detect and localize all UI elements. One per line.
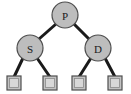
node-label-root: P <box>62 10 68 22</box>
binary-tree-diagram: P S D <box>0 0 131 94</box>
tree-node-left: S <box>17 35 43 61</box>
node-label-right: D <box>94 43 102 55</box>
tree-node-right: D <box>85 35 111 61</box>
leaf-node-4 <box>108 76 122 90</box>
leaf-node-1 <box>7 76 21 90</box>
leaf-node-2 <box>43 76 57 90</box>
node-label-left: S <box>27 43 33 55</box>
tree-node-root: P <box>52 2 78 28</box>
leaf-node-3 <box>72 76 86 90</box>
